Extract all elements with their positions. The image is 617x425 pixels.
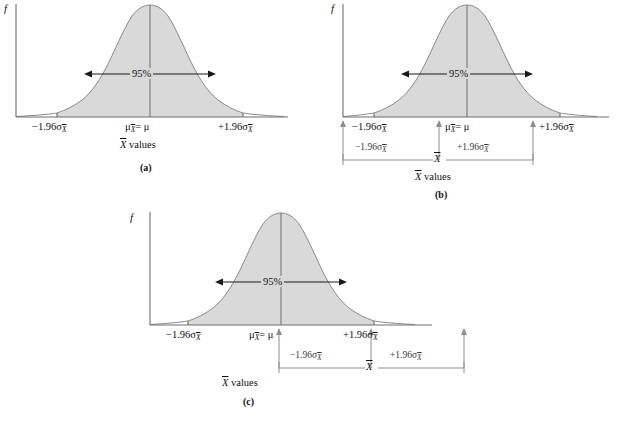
label-upper-bound-text: +1.96σ: [218, 121, 248, 132]
label-center-mean: μX= μ: [125, 122, 149, 133]
label-lower-bound-text: −1.96σ: [166, 329, 196, 340]
bracket-center-xbar: X: [434, 154, 440, 165]
panel-c-tag: (c): [243, 396, 254, 407]
confidence-percent-label: 95%: [261, 276, 284, 287]
bracket-label-right: +1.96σX: [457, 143, 489, 153]
subscript-xbar: X: [569, 125, 574, 134]
label-lower-bound-text: −1.96σ: [352, 121, 382, 132]
bracket-xbar-symbol: X: [366, 361, 372, 372]
label-center-mean: μX= μ: [249, 330, 273, 341]
bracket-label-right: +1.96σX: [390, 351, 422, 361]
xbar-symbol: X: [120, 139, 126, 150]
bracket-label-right-text: +1.96σ: [390, 350, 417, 360]
subscript-xbar: X: [484, 145, 489, 154]
panel-b-tag: (b): [435, 189, 447, 200]
label-center-mean: μX= μ: [445, 122, 469, 133]
bracket-label-left-text: −1.96σ: [290, 350, 317, 360]
panel-a-tag: (a): [140, 162, 152, 173]
bracket-center-xbar: X: [366, 362, 372, 373]
x-axis-caption: X values: [120, 140, 156, 151]
subscript-xbar: X: [373, 333, 378, 342]
bracket-xbar-symbol: X: [434, 153, 440, 164]
x-axis-caption-text: values: [231, 377, 258, 388]
xbar-symbol: X: [415, 171, 421, 182]
panel-a: f 95% −1.96σX μX= μ +1.96σX X values (a): [0, 0, 300, 195]
label-lower-bound: −1.96σX: [32, 122, 67, 133]
label-lower-bound: −1.96σX: [352, 122, 387, 133]
bracket-label-right-text: +1.96σ: [457, 142, 484, 152]
label-upper-bound: +1.96σX: [218, 122, 253, 133]
label-upper-bound: +1.96σX: [343, 330, 378, 341]
label-equals-mu: = μ: [135, 121, 149, 132]
label-lower-bound-text: −1.96σ: [32, 121, 62, 132]
label-upper-bound-text: +1.96σ: [343, 329, 373, 340]
xbar-symbol: X: [222, 377, 228, 388]
label-upper-bound-text: +1.96σ: [539, 121, 569, 132]
label-equals-mu: = μ: [259, 329, 273, 340]
bracket-label-left-text: −1.96σ: [355, 142, 382, 152]
label-upper-bound: +1.96σX: [539, 122, 574, 133]
panel-b: f 95%: [317, 0, 617, 200]
confidence-percent-label: 95%: [130, 68, 153, 79]
x-axis-caption-text: values: [424, 171, 451, 182]
x-axis-caption-text: values: [129, 139, 156, 150]
subscript-xbar: X: [382, 145, 387, 154]
panel-c: f 95% −1.96σX: [110, 208, 510, 425]
bracket-label-left: −1.96σX: [355, 143, 387, 153]
label-lower-bound: −1.96σX: [166, 330, 201, 341]
confidence-percent-label: 95%: [447, 68, 470, 79]
subscript-xbar: X: [317, 353, 322, 362]
subscript-xbar: X: [248, 125, 253, 134]
subscript-xbar: X: [196, 333, 201, 342]
subscript-xbar: X: [62, 125, 67, 134]
subscript-xbar: X: [382, 125, 387, 134]
bracket-label-left: −1.96σX: [290, 351, 322, 361]
label-equals-mu: = μ: [455, 121, 469, 132]
x-axis-caption: X values: [415, 172, 451, 183]
x-axis-caption: X values: [222, 378, 258, 389]
subscript-xbar: X: [417, 353, 422, 362]
